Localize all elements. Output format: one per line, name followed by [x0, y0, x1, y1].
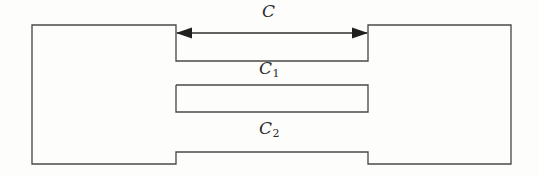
label-c1: C1: [259, 60, 279, 77]
notched-plate-outline: [32, 25, 511, 164]
arrow-head-right-icon: [352, 28, 368, 39]
label-c1-symbol: C: [259, 58, 272, 78]
label-c: C: [262, 3, 275, 20]
central-ligament-bar: [176, 85, 368, 112]
diagram-canvas: [0, 0, 539, 177]
label-c-symbol: C: [262, 1, 275, 21]
technical-diagram-figure: C C1 C2: [0, 0, 539, 177]
label-c2-symbol: C: [259, 118, 272, 138]
label-c2-subscript: 2: [273, 127, 280, 140]
label-c1-subscript: 1: [273, 67, 280, 80]
arrow-head-left-icon: [176, 28, 192, 39]
label-c2: C2: [259, 120, 279, 137]
